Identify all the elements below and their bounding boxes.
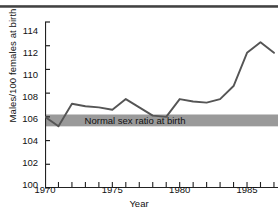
x-tick-1980: 1980: [163, 184, 197, 195]
plot-area-container: Males/100 females at birth 114 112 110 1…: [0, 8, 278, 219]
chart-figure: Males/100 females at birth 114 112 110 1…: [0, 0, 278, 219]
x-tick-1985: 1985: [230, 184, 264, 195]
y-tick-106: 106: [12, 114, 38, 123]
y-tick-114: 114: [12, 26, 38, 35]
x-axis-tick-labels: 1970197519801985: [45, 8, 278, 208]
x-tick-1970: 1970: [28, 184, 62, 195]
y-tick-112: 112: [12, 48, 38, 57]
y-tick-108: 108: [12, 92, 38, 101]
x-tick-1975: 1975: [95, 184, 129, 195]
y-axis-tick-labels: 114 112 110 108 106 104 102 100: [12, 8, 38, 188]
y-tick-102: 102: [12, 158, 38, 167]
y-tick-104: 104: [12, 136, 38, 145]
y-tick-110: 110: [12, 70, 38, 79]
x-axis-label: Year: [0, 198, 278, 209]
